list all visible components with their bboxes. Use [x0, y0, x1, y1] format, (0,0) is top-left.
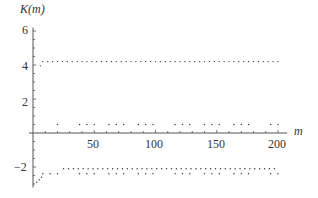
data-point	[248, 61, 249, 62]
data-point	[91, 61, 92, 62]
data-point	[57, 173, 58, 174]
data-point	[179, 61, 180, 62]
y-tick-4: 4	[22, 59, 28, 74]
data-point	[268, 61, 269, 62]
data-point	[170, 61, 171, 62]
scatter-plot	[0, 0, 318, 198]
data-point	[140, 61, 141, 62]
data-point	[209, 61, 210, 62]
y-axis-title: K(m)	[20, 2, 45, 17]
data-point	[156, 168, 157, 169]
data-point	[161, 168, 162, 169]
data-point	[233, 61, 234, 62]
data-point	[214, 61, 215, 62]
data-point	[152, 124, 153, 125]
data-point	[274, 168, 275, 169]
data-point	[241, 124, 242, 125]
data-point	[106, 61, 107, 62]
data-point	[125, 61, 126, 62]
data-point	[135, 61, 136, 62]
data-point	[145, 124, 146, 125]
data-point	[241, 173, 242, 174]
data-point	[228, 61, 229, 62]
data-point	[171, 168, 172, 169]
data-point	[233, 173, 234, 174]
data-point	[96, 61, 97, 62]
data-point	[253, 61, 254, 62]
data-point	[189, 173, 190, 174]
data-point	[233, 124, 234, 125]
data-point	[277, 124, 278, 125]
data-point	[277, 173, 278, 174]
data-point	[145, 173, 146, 174]
data-point	[195, 168, 196, 169]
data-point	[86, 61, 87, 62]
data-point	[200, 168, 201, 169]
data-point	[189, 124, 190, 125]
data-point	[94, 124, 95, 125]
data-point	[259, 168, 260, 169]
data-point	[249, 168, 250, 169]
data-point	[86, 124, 87, 125]
y-tick-2: 2	[22, 95, 28, 110]
data-point	[219, 173, 220, 174]
data-point	[83, 168, 84, 169]
x-tick-50: 50	[87, 137, 99, 152]
data-point	[269, 168, 270, 169]
data-point	[76, 61, 77, 62]
data-point	[210, 168, 211, 169]
data-point	[152, 173, 153, 174]
data-point	[94, 173, 95, 174]
data-point	[248, 124, 249, 125]
data-point	[67, 61, 68, 62]
data-point	[132, 168, 133, 169]
data-point	[244, 168, 245, 169]
data-point	[130, 61, 131, 62]
data-point	[138, 124, 139, 125]
data-point	[204, 61, 205, 62]
data-point	[123, 173, 124, 174]
data-point	[270, 173, 271, 174]
data-point	[68, 168, 69, 169]
data-point	[36, 182, 37, 183]
data-point	[220, 168, 221, 169]
data-point	[102, 168, 103, 169]
data-point	[223, 61, 224, 62]
data-point	[263, 61, 264, 62]
data-point	[166, 168, 167, 169]
data-point	[205, 168, 206, 169]
data-point	[181, 168, 182, 169]
x-tick-150: 150	[207, 137, 225, 152]
data-point	[41, 177, 42, 178]
data-point	[211, 124, 212, 125]
data-point	[78, 168, 79, 169]
data-point	[42, 61, 43, 62]
data-point	[219, 124, 220, 125]
data-point	[116, 124, 117, 125]
data-point	[151, 168, 152, 169]
data-point	[219, 61, 220, 62]
data-point	[184, 61, 185, 62]
data-point	[117, 168, 118, 169]
data-point	[204, 173, 205, 174]
data-point	[52, 61, 53, 62]
data-point	[174, 173, 175, 174]
data-point	[174, 124, 175, 125]
data-point	[136, 168, 137, 169]
data-point	[73, 168, 74, 169]
data-point	[150, 61, 151, 62]
data-point	[141, 168, 142, 169]
data-point	[145, 61, 146, 62]
data-point	[146, 168, 147, 169]
data-point	[79, 173, 80, 174]
data-point	[47, 61, 48, 62]
data-point	[108, 124, 109, 125]
data-point	[194, 61, 195, 62]
data-point	[138, 173, 139, 174]
data-point	[270, 124, 271, 125]
data-point	[239, 168, 240, 169]
data-point	[87, 168, 88, 169]
data-point	[155, 61, 156, 62]
data-point	[72, 61, 73, 62]
data-point	[182, 173, 183, 174]
